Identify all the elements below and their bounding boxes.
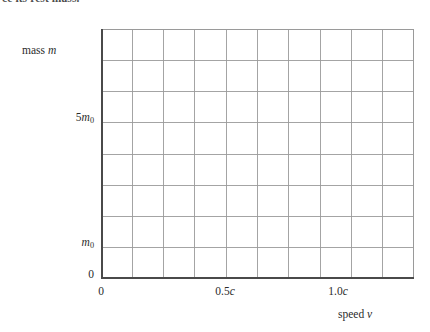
x-tick-half-c-value: 0.5: [215, 285, 229, 297]
y-tick-m0-symbol: m: [82, 236, 90, 248]
plot-area: [101, 29, 414, 279]
y-tick-label-m0: m0: [54, 236, 94, 248]
x-axis-title: speed v: [338, 308, 372, 320]
x-tick-label-one-c: 1.0c: [313, 285, 363, 297]
y-axis-title: mass m: [22, 44, 56, 56]
y-tick-5m0-symbol: m: [82, 111, 90, 123]
y-tick-label-5m0: 5m0: [54, 111, 94, 123]
x-tick-zero-value: 0: [98, 285, 104, 297]
y-axis-title-symbol: m: [48, 44, 56, 56]
x-tick-label-zero: 0: [76, 285, 126, 297]
y-tick-m0-subscript: 0: [90, 241, 94, 250]
x-tick-half-c-symbol: c: [230, 285, 235, 297]
grid-svg: [101, 29, 414, 279]
x-tick-one-c-symbol: c: [343, 285, 348, 297]
x-axis-title-prefix: speed: [338, 308, 364, 320]
relativistic-mass-graph-figure: mass m 5m0 m0 0 0 0.5c 1.0c speed v: [0, 0, 430, 332]
y-tick-label-zero: 0: [54, 268, 94, 280]
y-tick-5m0-subscript: 0: [90, 116, 94, 125]
x-tick-one-c-value: 1.0: [328, 285, 342, 297]
y-axis-title-prefix: mass: [22, 44, 45, 56]
x-tick-label-half-c: 0.5c: [200, 285, 250, 297]
x-axis-title-symbol: v: [367, 308, 372, 320]
